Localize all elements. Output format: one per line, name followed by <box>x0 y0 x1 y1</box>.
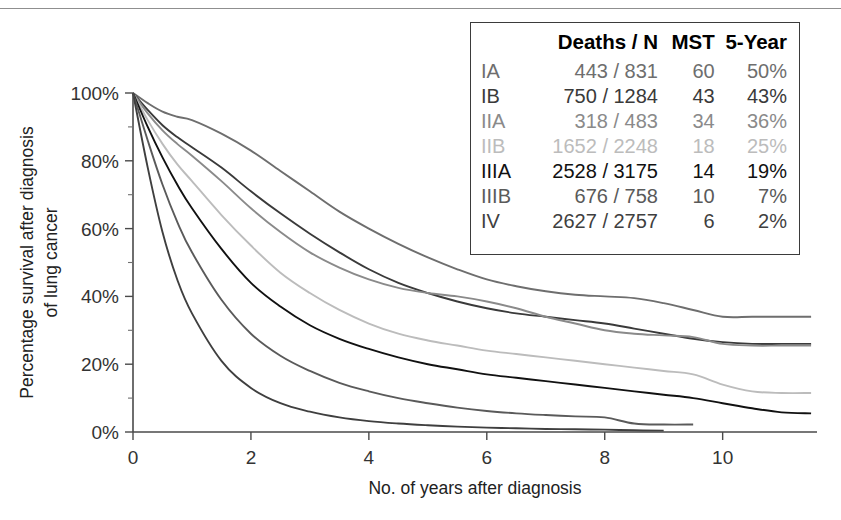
y-tick-label: 0% <box>92 422 120 443</box>
x-axis-title: No. of years after diagnosis <box>368 478 581 498</box>
x-tick-label: 0 <box>128 447 139 468</box>
legend-header-mst: MST <box>662 29 719 59</box>
legend-cell-deaths: 2528 / 3175 <box>534 159 662 184</box>
legend-row: IIA318 / 4833436% <box>471 109 799 134</box>
legend-body: IA443 / 8316050%IB750 / 12844343%IIA318 … <box>471 59 799 234</box>
legend-cell-five_year: 19% <box>719 159 799 184</box>
legend-cell-mst: 34 <box>662 109 719 134</box>
legend-cell-five_year: 50% <box>719 59 799 84</box>
legend-cell-mst: 14 <box>662 159 719 184</box>
y-tick-label: 100% <box>70 83 119 104</box>
legend-cell-five_year: 25% <box>719 134 799 159</box>
legend-cell-stage: IIB <box>471 134 534 159</box>
legend-cell-mst: 43 <box>662 84 719 109</box>
legend-header-deaths: Deaths / N <box>534 29 662 59</box>
legend-box: Deaths / N MST 5-Year IA443 / 8316050%IB… <box>470 22 800 255</box>
x-tick-label: 10 <box>712 447 733 468</box>
y-tick-label: 80% <box>81 151 119 172</box>
legend-cell-deaths: 318 / 483 <box>534 109 662 134</box>
legend-cell-mst: 60 <box>662 59 719 84</box>
legend-row: IA443 / 8316050% <box>471 59 799 84</box>
legend-cell-deaths: 443 / 831 <box>534 59 662 84</box>
legend-table: Deaths / N MST 5-Year IA443 / 8316050%IB… <box>471 29 799 234</box>
legend-cell-stage: IIIA <box>471 159 534 184</box>
legend-header-row: Deaths / N MST 5-Year <box>471 29 799 59</box>
x-tick-label: 8 <box>599 447 610 468</box>
y-tick-label: 60% <box>81 219 119 240</box>
legend-cell-deaths: 750 / 1284 <box>534 84 662 109</box>
x-tick-label: 6 <box>482 447 493 468</box>
legend-cell-deaths: 2627 / 2757 <box>534 209 662 234</box>
legend-cell-five_year: 43% <box>719 84 799 109</box>
legend-cell-deaths: 1652 / 2248 <box>534 134 662 159</box>
legend-cell-stage: IIIB <box>471 184 534 209</box>
legend-cell-stage: IIA <box>471 109 534 134</box>
legend-cell-stage: IB <box>471 84 534 109</box>
legend-row: IIB1652 / 22481825% <box>471 134 799 159</box>
legend-row: IB750 / 12844343% <box>471 84 799 109</box>
legend-cell-mst: 18 <box>662 134 719 159</box>
y-tick-label: 40% <box>81 286 119 307</box>
y-tick-label: 20% <box>81 354 119 375</box>
legend-header-stage <box>471 29 534 59</box>
legend-row: IV2627 / 275762% <box>471 209 799 234</box>
legend-header-five-year: 5-Year <box>719 29 799 59</box>
legend-cell-deaths: 676 / 758 <box>534 184 662 209</box>
legend-cell-mst: 10 <box>662 184 719 209</box>
legend-row: IIIB676 / 758107% <box>471 184 799 209</box>
legend-cell-five_year: 2% <box>719 209 799 234</box>
x-tick-label: 4 <box>364 447 375 468</box>
legend-cell-stage: IV <box>471 209 534 234</box>
survival-chart-figure: 0%20%40%60%80%100%0246810No. of years af… <box>0 0 841 520</box>
legend-cell-stage: IA <box>471 59 534 84</box>
y-axis-title-line2: of lung cancer <box>41 207 61 317</box>
legend-row: IIIA2528 / 31751419% <box>471 159 799 184</box>
x-tick-label: 2 <box>246 447 257 468</box>
y-axis-title-line1: Percentage survival after diagnosis <box>17 126 37 399</box>
legend-cell-five_year: 36% <box>719 109 799 134</box>
legend-cell-mst: 6 <box>662 209 719 234</box>
legend-cell-five_year: 7% <box>719 184 799 209</box>
